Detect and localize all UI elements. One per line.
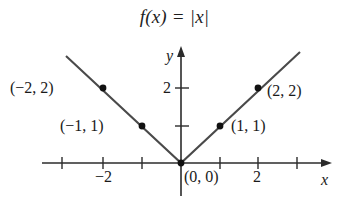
x-tick-label-neg2: −2 xyxy=(95,168,112,186)
data-point-origin xyxy=(178,160,185,167)
point-label-pos2-2: (2, 2) xyxy=(267,82,302,100)
data-point-pos1-1 xyxy=(217,123,224,130)
absolute-value-curve xyxy=(66,52,300,163)
absolute-value-function-figure: f(x) = |x| x y −2 2 2 (−2, 2) (−1, 1) (0… xyxy=(0,0,349,208)
point-label-pos1-1: (1, 1) xyxy=(231,117,266,135)
x-axis-label: x xyxy=(321,171,328,189)
y-axis-label: y xyxy=(166,47,173,65)
x-axis-arrowhead xyxy=(321,159,332,167)
point-label-neg1-1: (−1, 1) xyxy=(60,117,104,135)
y-axis-arrowhead xyxy=(177,46,185,57)
x-tick-label-pos2: 2 xyxy=(253,168,261,186)
y-tick-label-2: 2 xyxy=(163,79,171,97)
data-point-pos2-2 xyxy=(255,85,262,92)
point-label-origin: (0, 0) xyxy=(184,168,219,186)
data-point-neg1-1 xyxy=(139,123,146,130)
plot-canvas xyxy=(0,0,349,208)
data-point-neg2-2 xyxy=(100,85,107,92)
point-label-neg2-2: (−2, 2) xyxy=(10,79,54,97)
